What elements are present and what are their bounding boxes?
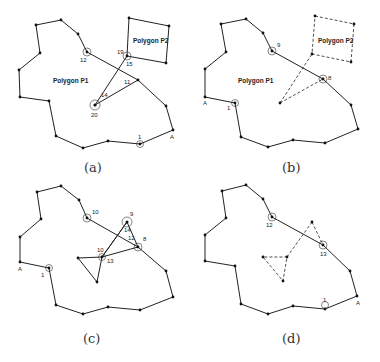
panel-c: 10 9 8 13 10 12 14 1 A (c) — [18, 185, 174, 346]
vertex-label: 11 — [124, 79, 131, 85]
ray-line — [95, 56, 127, 105]
caption-b: (b) — [282, 160, 300, 175]
panel-d: 12 13 1 A (d) — [204, 184, 360, 346]
caption-d: (d) — [282, 331, 300, 346]
polygon-p1-label: Polygon P1 — [53, 77, 89, 85]
vertex-label: A — [356, 300, 360, 306]
vertex-label: 15 — [126, 61, 133, 67]
vertex-label: 8 — [328, 75, 332, 81]
vertex-label: 9 — [130, 211, 134, 217]
vertex-label: 14 — [101, 92, 108, 98]
caption-c: (c) — [83, 331, 100, 346]
vertex-label: 13 — [320, 251, 327, 257]
vertices — [204, 184, 359, 316]
polygon-p1 — [205, 185, 357, 314]
vertex-label: A — [170, 134, 174, 140]
vertex-label: 1 — [227, 105, 231, 111]
vertex-label: 20 — [91, 112, 98, 118]
vertices — [204, 15, 360, 149]
vertex-label: 12 — [128, 235, 135, 241]
ray-line — [280, 79, 323, 103]
vertex-label: A — [203, 100, 207, 106]
polygon-p1-label: Polygon P1 — [238, 77, 274, 85]
vertex-label: 14 — [124, 227, 131, 233]
polygon-p2-label: Polygon P2 — [318, 37, 354, 45]
caption-a: (a) — [84, 160, 102, 175]
vertex-label: 1 — [138, 134, 142, 140]
panel-b: Polygon P1 Polygon P2 9 8 1 A (b) — [203, 15, 359, 175]
ray-line — [280, 54, 312, 103]
vertex-label: 19 — [117, 49, 124, 55]
vertex-label: 8 — [143, 236, 147, 242]
figure-canvas: Polygon P1 Polygon P2 12 19 15 11 14 20 … — [0, 0, 380, 362]
vertex-label: 13 — [107, 258, 114, 264]
vertex-label: 10 — [97, 247, 104, 253]
vertex-label: 9 — [277, 42, 281, 48]
polygon-p2 — [263, 222, 312, 281]
panel-a: Polygon P1 Polygon P2 12 19 15 11 14 20 … — [18, 17, 175, 175]
vertex-label: 12 — [266, 222, 273, 228]
vertex-label: 1 — [41, 272, 45, 278]
polygon-p2-label: Polygon P2 — [133, 37, 169, 45]
vertex-label: 10 — [92, 209, 99, 215]
vertex-label: A — [18, 266, 22, 272]
vertex-label: 12 — [80, 57, 87, 63]
